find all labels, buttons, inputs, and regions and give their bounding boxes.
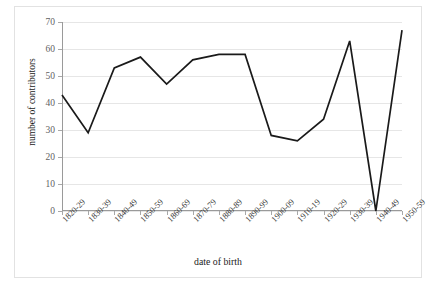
y-axis-tick-label: 50 xyxy=(46,71,56,81)
y-axis-tick-label: 20 xyxy=(46,152,56,162)
y-axis-tick-label: 40 xyxy=(46,98,56,108)
plot-area: 010203040506070 1820-291830-391840-49185… xyxy=(62,22,402,211)
chart-figure: number of contributors 010203040506070 1… xyxy=(14,6,422,278)
y-axis-title-label: number of contributors xyxy=(27,58,37,146)
y-axis-tick-label: 60 xyxy=(46,44,56,54)
series-polyline xyxy=(62,30,402,211)
x-axis-title: date of birth xyxy=(15,256,421,267)
y-axis-tick-label: 70 xyxy=(46,17,56,27)
y-axis-title: number of contributors xyxy=(25,7,39,196)
y-axis-tick-label: 10 xyxy=(46,179,56,189)
y-axis-tick-label: 0 xyxy=(50,206,55,216)
line-series xyxy=(62,22,402,211)
y-axis-tick-label: 30 xyxy=(46,125,56,135)
x-axis-title-label: date of birth xyxy=(194,256,242,267)
x-axis-tick-label: 1950-59 xyxy=(400,197,427,224)
